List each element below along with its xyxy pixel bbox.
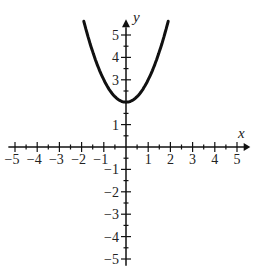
axes [8, 19, 250, 265]
y-tick-label: 1 [112, 118, 119, 133]
x-tick-label: 5 [234, 152, 241, 167]
y-tick-label: −1 [104, 162, 119, 177]
parabola-graph: −5−4−3−2−112345−5−4−3−2−11345 x y [0, 0, 256, 276]
y-tick-label: 5 [112, 28, 119, 43]
y-tick-label: −5 [104, 252, 119, 267]
x-tick-label: −4 [27, 152, 42, 167]
y-tick-label: −3 [104, 207, 119, 222]
y-tick-label: −2 [104, 185, 119, 200]
x-tick-label: 3 [189, 152, 196, 167]
x-tick-label: −5 [5, 152, 20, 167]
x-axis-arrow-icon [244, 143, 251, 151]
y-tick-label: 3 [112, 73, 119, 88]
y-axis-arrow-icon [122, 19, 130, 27]
y-tick-label: 4 [112, 50, 119, 65]
x-tick-label: 4 [211, 152, 218, 167]
x-tick-label: 2 [167, 152, 174, 167]
x-axis-label: x [237, 125, 245, 141]
y-axis-label: y [131, 9, 140, 25]
x-tick-label: 1 [145, 152, 152, 167]
x-tick-label: −2 [71, 152, 86, 167]
x-tick-label: −3 [49, 152, 64, 167]
y-tick-label: −4 [104, 230, 119, 245]
